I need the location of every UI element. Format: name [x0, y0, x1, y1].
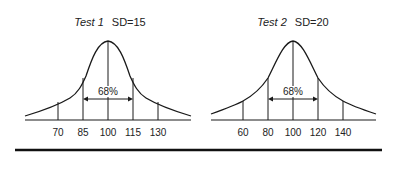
test2-arrowhead-right-icon [313, 97, 318, 102]
test2-arrowhead-left-icon [268, 97, 273, 102]
test1-tick-label: 70 [52, 127, 64, 138]
test1-tick-label: 100 [100, 127, 117, 138]
test2-tick-label: 120 [310, 127, 327, 138]
test1-tick-label: 115 [125, 127, 141, 138]
test1-arrowhead-left-icon [83, 97, 88, 102]
test2-tick-label: 100 [285, 127, 302, 138]
test1-tick-label: 85 [77, 127, 89, 138]
test1-title: Test 1SD=15 [74, 16, 146, 28]
test1-tick-label: 130 [150, 127, 167, 138]
test2-tick-label: 140 [335, 127, 352, 138]
test1-chart: Test 1SD=15 68% 70 85 100 115 130 [25, 16, 191, 138]
test2-title: Test 2SD=20 [257, 16, 329, 28]
test2-chart: Test 2SD=20 68% 60 80 100 120 140 [211, 16, 376, 138]
test1-percentage: 68% [98, 86, 118, 97]
normal-curves-diagram: Test 1SD=15 68% 70 85 100 115 130 Test 2… [0, 0, 400, 178]
test2-tick-label: 80 [262, 127, 274, 138]
test2-tick-label: 60 [237, 127, 249, 138]
test2-percentage: 68% [283, 86, 303, 97]
test1-arrowhead-right-icon [128, 97, 133, 102]
